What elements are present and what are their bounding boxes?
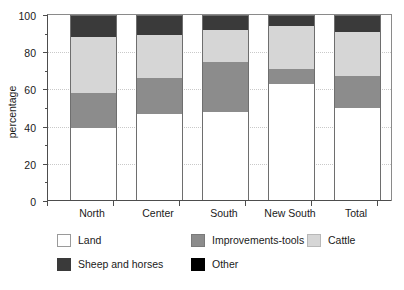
x-axis-label-north: North bbox=[79, 208, 105, 219]
bar-new-south bbox=[268, 15, 315, 201]
bar-south-segment-improvements-tools bbox=[202, 62, 249, 112]
y-tick-label-60: 60 bbox=[24, 85, 36, 96]
y-tick-minor-90 bbox=[45, 34, 49, 35]
y-tick-minor-70 bbox=[45, 71, 49, 72]
y-tick-minor-50 bbox=[45, 108, 49, 109]
legend-item-sheep-and-horses[interactable]: Sheep and horses bbox=[57, 254, 163, 274]
y-tick-80: 80 bbox=[43, 52, 48, 53]
legend-swatch-sheep-and-horses bbox=[57, 258, 71, 271]
bar-center-segment-improvements-tools bbox=[136, 78, 183, 113]
y-tick-20: 20 bbox=[43, 164, 48, 165]
bar-south-segment-cattle bbox=[202, 30, 249, 62]
bar-north-segment-improvements-tools bbox=[70, 93, 117, 128]
y-tick-40: 40 bbox=[43, 127, 48, 128]
x-axis-label-total: Total bbox=[345, 208, 367, 219]
x-tick-3 bbox=[245, 201, 246, 206]
y-tick-60: 60 bbox=[43, 89, 48, 90]
chart-figure: percentage 100 80 60 40 20 0 bbox=[0, 0, 404, 290]
legend-label-other: Other bbox=[212, 259, 238, 270]
legend-label-cattle: Cattle bbox=[328, 235, 355, 246]
x-tick-1 bbox=[113, 201, 114, 206]
x-tick-2 bbox=[179, 201, 180, 206]
bar-north bbox=[70, 15, 117, 201]
y-tick-label-80: 80 bbox=[24, 48, 36, 59]
bar-new-south-segment-cattle bbox=[268, 26, 315, 69]
legend-item-other[interactable]: Other bbox=[191, 254, 238, 274]
bar-center-segment-cattle bbox=[136, 35, 183, 78]
bar-total-segment-sheep-and-horses bbox=[334, 15, 381, 32]
bar-total-segment-land bbox=[334, 108, 381, 201]
legend-row-2: Sheep and horses Other bbox=[57, 254, 387, 274]
legend-row-1: Land Improvements-tools Cattle bbox=[57, 230, 387, 250]
legend-swatch-cattle bbox=[307, 234, 321, 247]
y-axis-title-text: percentage bbox=[6, 64, 18, 160]
bar-north-segment-land bbox=[70, 128, 117, 201]
bar-south bbox=[202, 15, 249, 201]
y-tick-label-40: 40 bbox=[24, 122, 36, 133]
bar-new-south-segment-sheep-and-horses bbox=[268, 15, 315, 26]
bar-total-segment-cattle bbox=[334, 32, 381, 77]
legend-item-land[interactable]: Land bbox=[57, 230, 101, 250]
legend-swatch-improvements-tools bbox=[191, 234, 205, 247]
y-tick-label-0: 0 bbox=[30, 197, 36, 208]
plot-area: 100 80 60 40 20 0 bbox=[47, 14, 392, 201]
chart-legend: Land Improvements-tools Cattle Sheep and… bbox=[57, 230, 387, 278]
bar-center-segment-land bbox=[136, 114, 183, 201]
x-tick-4 bbox=[311, 201, 312, 206]
y-tick-minor-10 bbox=[45, 182, 49, 183]
bar-center-segment-sheep-and-horses bbox=[136, 15, 183, 35]
y-tick-minor-30 bbox=[45, 145, 49, 146]
legend-label-land: Land bbox=[78, 235, 101, 246]
x-axis-line: North Center South New South Total bbox=[47, 200, 391, 201]
y-tick-label-20: 20 bbox=[24, 160, 36, 171]
bar-total bbox=[334, 15, 381, 201]
bar-north-segment-cattle bbox=[70, 37, 117, 93]
bar-center bbox=[136, 15, 183, 201]
bar-new-south-segment-improvements-tools bbox=[268, 69, 315, 84]
bar-south-segment-sheep-and-horses bbox=[202, 15, 249, 30]
legend-swatch-other bbox=[191, 258, 205, 271]
bar-north-segment-sheep-and-horses bbox=[70, 15, 117, 37]
y-tick-100: 100 bbox=[43, 15, 48, 16]
x-tick-5 bbox=[377, 201, 378, 206]
x-tick-0 bbox=[47, 201, 48, 206]
bar-total-segment-improvements-tools bbox=[334, 76, 381, 108]
x-axis-label-center: Center bbox=[142, 208, 174, 219]
bar-south-segment-land bbox=[202, 112, 249, 201]
x-axis-label-south: South bbox=[210, 208, 237, 219]
legend-label-sheep-and-horses: Sheep and horses bbox=[78, 259, 163, 270]
y-tick-label-100: 100 bbox=[18, 11, 36, 22]
legend-label-improvements-tools: Improvements-tools bbox=[212, 235, 304, 246]
legend-item-cattle[interactable]: Cattle bbox=[307, 230, 355, 250]
x-axis-label-new-south: New South bbox=[264, 208, 315, 219]
bar-new-south-segment-land bbox=[268, 84, 315, 201]
legend-swatch-land bbox=[57, 234, 71, 247]
legend-item-improvements-tools[interactable]: Improvements-tools bbox=[191, 230, 304, 250]
